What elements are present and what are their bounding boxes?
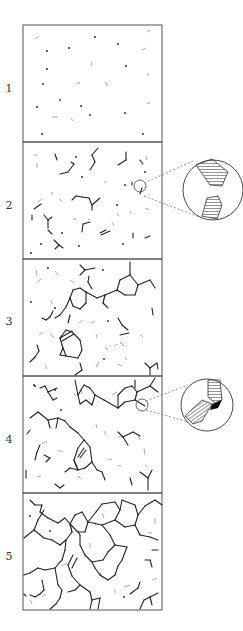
- grain-boundary-segment: [84, 385, 90, 388]
- grain-boundary-segment: [86, 400, 92, 405]
- grain-boundary-segment: [62, 550, 65, 560]
- grain-boundary-segment: [144, 597, 150, 600]
- grain-boundary-segment: [92, 148, 98, 155]
- nucleus-fragment: [91, 62, 92, 66]
- grain-boundary-segment: [80, 363, 82, 370]
- point-nucleus: [124, 112, 126, 114]
- nucleus-fragment: [120, 342, 124, 346]
- grain-boundary-segment: [48, 392, 53, 400]
- nucleus-fragment: [105, 347, 108, 350]
- point-nucleus: [125, 65, 127, 67]
- grain-boundary-segment: [35, 452, 37, 460]
- inset-open-boundary: [144, 159, 243, 220]
- grain-boundary-segment: [80, 585, 90, 592]
- grain-boundary-segment: [152, 308, 153, 315]
- grain-boundary-segment: [46, 458, 50, 462]
- nucleus-fragment: [79, 320, 83, 323]
- inset-closed-boundary: [146, 379, 233, 431]
- grain-boundary-segment: [44, 538, 52, 540]
- grain-boundary-segment: [84, 440, 90, 447]
- grain-boundary-segment: [50, 311, 53, 317]
- grain-boundary-segment: [140, 472, 148, 478]
- grain-boundary-segment: [135, 515, 138, 525]
- grain-boundary-segment: [115, 566, 118, 575]
- point-nucleus: [81, 176, 83, 178]
- grain-boundary-segment: [75, 380, 78, 395]
- point-nucleus: [116, 204, 118, 206]
- grain-boundary-segment: [60, 172, 68, 174]
- grain-boundary-segment: [83, 222, 90, 224]
- grain-boundary-segment: [78, 433, 84, 440]
- grain-boundary-segment: [55, 315, 60, 318]
- grain-boundary-segment: [135, 525, 140, 535]
- nucleus-fragment: [108, 459, 112, 460]
- grain-boundary-segment: [55, 560, 62, 568]
- grain-boundary-segment: [48, 230, 52, 234]
- grain-boundary-segment: [70, 515, 75, 524]
- point-nucleus: [34, 385, 36, 387]
- grain-boundary-segment: [150, 597, 152, 605]
- grain-boundary-segment: [90, 592, 92, 600]
- grain-boundary-segment: [62, 334, 74, 341]
- nucleus-fragment: [112, 222, 114, 226]
- grain-boundary-segment: [42, 318, 46, 320]
- point-nucleus: [103, 358, 105, 360]
- grain-boundary-segment: [80, 545, 85, 555]
- nucleus-fragment: [60, 199, 62, 201]
- grain-boundary-segment: [66, 298, 70, 307]
- grain-boundary-segment: [72, 558, 77, 568]
- nucleus-fragment: [58, 450, 62, 452]
- grain-boundary-segment: [123, 432, 133, 437]
- grain-boundary-segment: [135, 392, 137, 400]
- grain-boundary-segment: [78, 395, 80, 404]
- grain-boundary-segment: [108, 575, 115, 580]
- point-nucleus: [46, 50, 48, 52]
- nucleus-fragment: [74, 394, 76, 396]
- grain-boundary-segment: [78, 468, 85, 470]
- grain-boundary-segment: [30, 595, 35, 597]
- grain-boundary-segment: [55, 245, 59, 249]
- grain-boundary-segment: [48, 217, 52, 220]
- grain-boundary-segment: [78, 440, 84, 448]
- grain-boundary-segment: [73, 306, 80, 309]
- point-nucleus: [54, 389, 56, 391]
- point-nucleus: [117, 43, 119, 45]
- grain-boundary-segment: [78, 448, 84, 457]
- grain-boundary-segment: [40, 590, 44, 594]
- grain-boundary-segment: [70, 427, 78, 433]
- nucleus-fragment: [117, 213, 119, 216]
- grain-boundary-segment: [85, 555, 92, 562]
- grain-boundary-segment: [60, 338, 62, 345]
- grain-boundary-segment: [60, 331, 72, 338]
- grain-boundary-segment: [148, 470, 152, 478]
- grain-boundary-segment: [150, 593, 158, 597]
- grain-boundary-segment: [104, 400, 118, 408]
- grain-boundary-segment: [90, 162, 95, 170]
- nucleus-fragment: [125, 357, 127, 360]
- point-nucleus: [61, 232, 63, 234]
- grain-boundary-segment: [48, 518, 58, 523]
- nucleus-fragment: [35, 36, 39, 39]
- grain-boundary-segment: [123, 437, 128, 445]
- point-nucleus: [40, 243, 42, 245]
- grain-boundary-segment: [115, 545, 127, 547]
- nucleus-fragment: [104, 431, 106, 435]
- grain-boundary-segment: [145, 363, 150, 368]
- grain-boundary-segment: [80, 270, 85, 275]
- nucleus-fragment: [77, 82, 80, 84]
- grain-boundary-segment: [24, 573, 30, 575]
- grain-boundary-segment: [100, 230, 106, 233]
- grain-boundary-segment: [90, 447, 92, 462]
- grain-boundary-segment: [82, 224, 83, 232]
- grain-boundary-segment: [60, 355, 66, 356]
- point-nucleus: [123, 596, 125, 598]
- nucleus-fragment: [88, 219, 90, 220]
- nucleus-fragment: [38, 199, 42, 202]
- grain-boundary-segment: [68, 315, 70, 323]
- grain-boundary-segment: [48, 418, 58, 420]
- grain-boundary-segment: [73, 288, 80, 290]
- grain-boundary-segment: [90, 388, 95, 395]
- grain-boundary-segment: [58, 518, 65, 523]
- point-nucleus: [75, 156, 77, 158]
- grain-boundary-segment: [80, 400, 86, 404]
